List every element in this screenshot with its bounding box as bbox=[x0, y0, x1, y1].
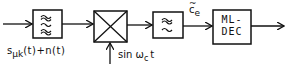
input-signal-subscript: μk bbox=[12, 49, 23, 59]
ml-decoder-line2: DEC bbox=[213, 26, 251, 38]
lowpass-filter-block bbox=[153, 12, 183, 38]
mixer-block bbox=[94, 11, 127, 42]
input-signal-label: sμk(t)+n(t) bbox=[7, 46, 65, 59]
ml-decoder-label: ML- DEC bbox=[213, 14, 251, 38]
bandpass-filter-icon bbox=[41, 16, 51, 36]
carrier-label: sin ωct bbox=[118, 50, 154, 63]
carrier-subscript: c bbox=[144, 54, 148, 63]
carrier-rest: t bbox=[150, 49, 154, 60]
multiplier-icon bbox=[94, 11, 127, 42]
lowpass-filter-icon bbox=[162, 19, 172, 32]
filter-output-subscript: e bbox=[195, 8, 201, 18]
carrier-symbol: sin ω bbox=[118, 49, 144, 60]
bandpass-filter-block bbox=[33, 10, 62, 38]
filter-output-accent: ~ bbox=[189, 0, 197, 8]
filter-output-label: ~ c e bbox=[189, 5, 200, 18]
input-signal-rest: (t)+n(t) bbox=[23, 45, 65, 56]
ml-decoder-line1: ML- bbox=[213, 14, 251, 26]
